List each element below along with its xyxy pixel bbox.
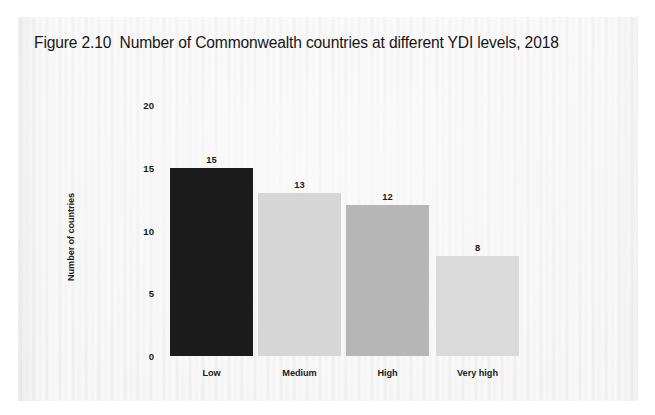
- bar-value-label-medium: 13: [258, 179, 341, 190]
- x-axis-tick-low: Low: [170, 368, 253, 378]
- bar-value-label-low: 15: [170, 154, 253, 165]
- bar-high: [346, 205, 429, 356]
- figure-title: Figure 2.10 Number of Commonwealth count…: [34, 30, 604, 55]
- x-axis-tick-high: High: [346, 368, 429, 378]
- figure-title-block: Figure 2.10 Number of Commonwealth count…: [34, 30, 604, 55]
- bar-value-label-very-high: 8: [436, 242, 519, 253]
- bar-chart: Number of countries 05101520 1513128 Low…: [0, 0, 655, 415]
- bar-low: [170, 168, 253, 356]
- bar-very-high: [436, 256, 519, 356]
- scanned-page: Figure 2.10 Number of Commonwealth count…: [0, 0, 655, 415]
- x-axis-tick-medium: Medium: [258, 368, 341, 378]
- bar-medium: [258, 193, 341, 356]
- bar-value-label-high: 12: [346, 191, 429, 202]
- x-axis-tick-very-high: Very high: [436, 368, 519, 378]
